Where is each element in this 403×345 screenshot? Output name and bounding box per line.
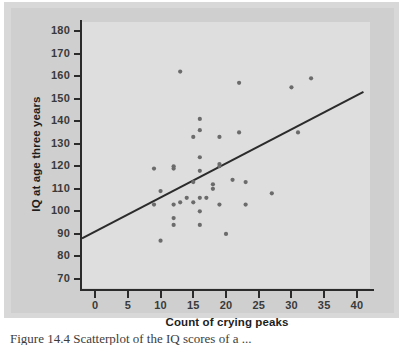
data-point (172, 223, 176, 227)
data-point (244, 202, 248, 206)
data-point (198, 155, 202, 159)
data-point (172, 216, 176, 220)
x-axis-title: Count of crying peaks (82, 316, 372, 328)
x-axis-tick (356, 291, 358, 298)
data-point (217, 164, 221, 168)
data-point (152, 202, 156, 206)
data-point (172, 202, 176, 206)
scatter-plot-canvas (82, 22, 370, 288)
y-axis-tick (74, 143, 81, 145)
x-axis-tick (127, 291, 129, 298)
data-point (211, 187, 215, 191)
y-axis-tick (74, 165, 81, 167)
data-point (158, 239, 162, 243)
data-point (172, 166, 176, 170)
data-point (191, 200, 195, 204)
regression-line-group (82, 92, 363, 239)
x-axis-tick (323, 291, 325, 298)
x-axis-spine (80, 289, 374, 291)
data-point (198, 196, 202, 200)
x-axis-tick (290, 291, 292, 298)
data-point (244, 180, 248, 184)
data-point (224, 232, 228, 236)
data-point (270, 191, 274, 195)
figure-caption: Figure 14.4 Scatterplot of the IQ scores… (10, 331, 400, 345)
data-point (211, 182, 215, 186)
data-point (198, 169, 202, 173)
y-axis-tick (74, 30, 81, 32)
data-point (296, 130, 300, 134)
data-point (191, 180, 195, 184)
x-axis-tick (225, 291, 227, 298)
y-axis-tick (74, 233, 81, 235)
data-point (152, 166, 156, 170)
data-point (198, 117, 202, 121)
data-point (230, 178, 234, 182)
x-axis-tick (94, 291, 96, 298)
x-axis-tick-label: 40 (337, 300, 377, 311)
data-points-group (152, 69, 313, 242)
x-axis-tick (192, 291, 194, 298)
data-point (191, 135, 195, 139)
y-axis-tick-label: 70 (30, 273, 70, 284)
y-axis-tick (74, 210, 81, 212)
data-point (158, 189, 162, 193)
x-axis-tick (258, 291, 260, 298)
data-point (237, 130, 241, 134)
y-axis-title: IQ at age three years (30, 49, 42, 259)
data-point (198, 209, 202, 213)
data-point (178, 69, 182, 73)
plot-area (82, 22, 370, 288)
y-axis-tick (74, 75, 81, 77)
y-axis-spine (80, 20, 82, 290)
data-point (237, 81, 241, 85)
y-axis-tick (74, 188, 81, 190)
y-axis-tick (74, 98, 81, 100)
x-axis-tick (160, 291, 162, 298)
data-point (204, 196, 208, 200)
figure: 708090100110120130140150160170180 051015… (0, 0, 403, 345)
data-point (217, 202, 221, 206)
y-axis-tick (74, 120, 81, 122)
data-point (289, 85, 293, 89)
y-axis-tick (74, 255, 81, 257)
data-point (198, 223, 202, 227)
data-point (185, 196, 189, 200)
data-point (198, 128, 202, 132)
y-axis-tick (74, 278, 81, 280)
data-point (178, 200, 182, 204)
y-axis-tick-label: 180 (30, 25, 70, 36)
y-axis-tick (74, 53, 81, 55)
regression-line (82, 92, 363, 239)
data-point (217, 135, 221, 139)
data-point (309, 76, 313, 80)
